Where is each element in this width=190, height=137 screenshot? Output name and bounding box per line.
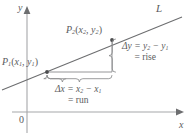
- point-marker-p1: [45, 70, 49, 74]
- line-label-L: L: [156, 2, 162, 15]
- delta-y-annotation: Δy = y2 − y1= rise: [122, 41, 168, 63]
- delta-x-annotation: Δx = x2 − x1= run: [55, 84, 101, 106]
- delta-y-line1: Δy = y2 − y1: [122, 41, 168, 51]
- delta-y-line2: = rise: [122, 52, 168, 63]
- delta-x-sub2: 1: [99, 88, 102, 94]
- point-label-p1: P1(x1, y1): [2, 56, 38, 68]
- x-axis-arrowhead: [176, 109, 184, 116]
- delta-x-lead: Δx = x: [55, 84, 80, 94]
- p1-paren-close: ): [35, 56, 38, 67]
- diagram-canvas: [0, 0, 190, 137]
- origin-label: 0: [19, 114, 24, 126]
- brace-delta-x-right: [47, 76, 112, 83]
- x-axis-label: x: [179, 119, 183, 131]
- delta-x-line2: = run: [55, 95, 101, 106]
- delta-x-mid: − x: [83, 84, 98, 94]
- point-label-p2: P2(x2, y2): [66, 24, 102, 36]
- delta-y-mid: − y: [150, 41, 165, 51]
- y-axis-label: y: [18, 2, 22, 14]
- y-axis-arrowhead: [24, 6, 31, 14]
- delta-y-sub2: 1: [166, 45, 169, 51]
- delta-x-line1: Δx = x2 − x1: [55, 84, 101, 94]
- slope-diagram-figure: L y x 0 P1(x1, y1) P2(x2, y2) Δy = y2 − …: [0, 0, 190, 137]
- delta-y-lead: Δy = y: [122, 41, 147, 51]
- p2-paren-close: ): [99, 24, 102, 35]
- brace-delta-x-left: [44, 76, 47, 79]
